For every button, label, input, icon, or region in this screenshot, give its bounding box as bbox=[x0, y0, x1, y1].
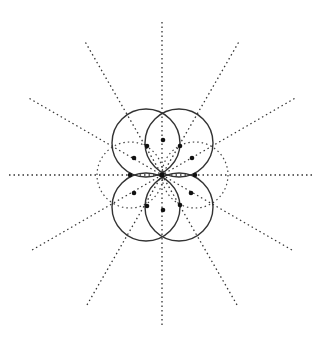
point-marker bbox=[132, 191, 137, 196]
point-marker bbox=[145, 204, 150, 209]
point-marker bbox=[178, 144, 183, 149]
point-marker bbox=[189, 191, 194, 196]
point-marker bbox=[193, 173, 198, 178]
point-marker bbox=[132, 156, 137, 161]
point-marker bbox=[161, 208, 166, 213]
point-marker bbox=[145, 144, 150, 149]
point-marker bbox=[190, 156, 195, 161]
geometric-diagram bbox=[0, 0, 324, 343]
point-marker bbox=[161, 138, 166, 143]
center-point bbox=[159, 172, 164, 177]
point-marker bbox=[128, 173, 133, 178]
point-marker bbox=[178, 203, 183, 208]
solid-circle bbox=[112, 109, 180, 177]
